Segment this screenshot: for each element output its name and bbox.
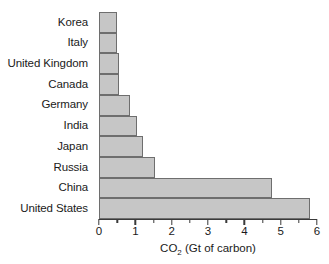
- x-tick-label-5: 5: [277, 226, 283, 238]
- bar-korea: [99, 12, 117, 33]
- bar-row: [99, 136, 317, 157]
- category-label-korea: Korea: [0, 12, 93, 33]
- x-tick-label-6: 6: [314, 226, 320, 238]
- x-axis-title-suffix: (Gt of carbon): [182, 242, 256, 254]
- x-axis-title-prefix: CO: [160, 242, 177, 254]
- category-label-india: India: [0, 116, 93, 137]
- category-label-canada: Canada: [0, 74, 93, 95]
- bar-germany: [99, 95, 130, 116]
- x-tick-label-1: 1: [132, 226, 138, 238]
- bar-canada: [99, 74, 119, 95]
- category-label-italy: Italy: [0, 33, 93, 54]
- plot-area: [99, 12, 317, 219]
- co2-emissions-bar-chart: Korea Italy United Kingdom Canada German…: [0, 0, 329, 264]
- x-tick-2-5: [189, 219, 190, 223]
- category-label-japan: Japan: [0, 136, 93, 157]
- x-tick-1-5: [153, 219, 154, 223]
- x-tick-label-3: 3: [205, 226, 211, 238]
- bar-russia: [99, 157, 155, 178]
- x-tick-0-5: [116, 219, 117, 223]
- bar-row: [99, 198, 317, 219]
- bar-row: [99, 116, 317, 137]
- bar-row: [99, 74, 317, 95]
- category-label-united-kingdom: United Kingdom: [0, 53, 93, 74]
- category-axis-labels: Korea Italy United Kingdom Canada German…: [0, 12, 93, 219]
- bar-united-kingdom: [99, 53, 119, 74]
- category-label-china: China: [0, 178, 93, 199]
- bar-japan: [99, 136, 143, 157]
- bar-italy: [99, 33, 117, 54]
- bar-row: [99, 95, 317, 116]
- bar-row: [99, 53, 317, 74]
- bar-china: [99, 178, 272, 199]
- bar-row: [99, 157, 317, 178]
- bar-row: [99, 33, 317, 54]
- x-tick-5-5: [298, 219, 299, 223]
- x-axis-title: CO2 (Gt of carbon): [99, 243, 317, 257]
- x-tick-4-5: [262, 219, 263, 223]
- bar-row: [99, 12, 317, 33]
- x-tick-label-4: 4: [241, 226, 247, 238]
- category-label-germany: Germany: [0, 95, 93, 116]
- bar-india: [99, 116, 137, 137]
- bar-united-states: [99, 198, 310, 219]
- category-label-russia: Russia: [0, 157, 93, 178]
- bar-row: [99, 178, 317, 199]
- category-label-united-states: United States: [0, 198, 93, 219]
- x-tick-label-0: 0: [96, 226, 102, 238]
- x-tick-label-2: 2: [168, 226, 174, 238]
- x-tick-3-5: [225, 219, 226, 223]
